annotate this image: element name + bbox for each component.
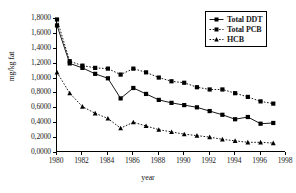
y-axis-tick <box>53 48 56 49</box>
y-axis-tick-label: 0,8000 <box>14 88 51 96</box>
x-axis-tick <box>56 152 57 155</box>
x-axis-tick-label: 1992 <box>201 157 216 165</box>
y-axis-tick-label: 1,8000 <box>14 14 51 22</box>
y-axis-tick-label: 0,4000 <box>14 118 51 126</box>
x-axis-tick <box>158 152 159 155</box>
legend-marker-total-pcb <box>209 25 224 34</box>
x-axis-tick-label: 1982 <box>74 157 89 165</box>
y-axis-tick <box>53 122 56 123</box>
y-axis-tick <box>53 33 56 34</box>
y-axis-tick-label: 0,6000 <box>14 103 51 111</box>
x-axis-tick <box>81 152 82 155</box>
x-axis-tick-label: 1990 <box>176 157 191 165</box>
x-axis-tick-label: 1984 <box>100 157 115 165</box>
x-axis-tick <box>107 152 108 155</box>
x-axis-tick-label: 1980 <box>49 157 64 165</box>
y-axis-tick <box>53 78 56 79</box>
x-axis-tick-label: 1988 <box>150 157 165 165</box>
y-axis-tick-label: 0,2000 <box>14 133 51 141</box>
x-axis-tick-label: 1996 <box>252 157 267 165</box>
chart-container: mg/kg fat 0,00000,20000,40000,60000,8000… <box>0 0 296 193</box>
chart-legend: Total DDT Total PCB HCB <box>205 11 267 47</box>
y-axis-tick-label: 1,6000 <box>14 29 51 37</box>
y-axis-tick <box>53 107 56 108</box>
legend-item[interactable]: Total DDT <box>209 14 262 24</box>
x-axis-tick <box>234 152 235 155</box>
y-axis-tick-label: 1,2000 <box>14 59 51 67</box>
y-axis-tick <box>53 63 56 64</box>
legend-marker-hcb <box>209 35 224 44</box>
x-axis-tick <box>209 152 210 155</box>
legend-marker-total-ddt <box>209 15 224 24</box>
x-axis-title: year <box>0 173 296 182</box>
y-axis-tick <box>53 18 56 19</box>
y-axis-tick-label: 1,4000 <box>14 44 51 52</box>
x-axis-tick <box>260 152 261 155</box>
y-axis-tick-label: 1,0000 <box>14 74 51 82</box>
x-axis-tick-label: 1998 <box>278 157 293 165</box>
legend-label: Total PCB <box>227 25 262 34</box>
x-axis-tick <box>285 152 286 155</box>
legend-label: Total DDT <box>227 15 262 24</box>
x-axis-tick <box>132 152 133 155</box>
y-axis-tick <box>53 137 56 138</box>
legend-item[interactable]: Total PCB <box>209 24 262 34</box>
series-hcb <box>55 70 276 145</box>
legend-label: HCB <box>227 35 244 44</box>
y-axis-tick <box>53 92 56 93</box>
y-axis-tick-label: 0,0000 <box>14 148 51 156</box>
legend-item[interactable]: HCB <box>209 34 262 44</box>
x-axis-tick <box>183 152 184 155</box>
x-axis-tick-label: 1994 <box>227 157 242 165</box>
x-axis-tick-label: 1986 <box>125 157 140 165</box>
